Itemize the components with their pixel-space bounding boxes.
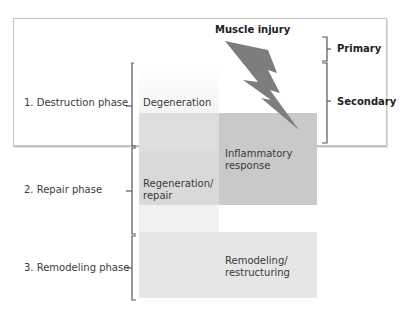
regeneration-label-1: Regeneration/ (143, 178, 213, 190)
phase-label-destruction: 1. Destruction phase (24, 97, 128, 109)
secondary-label: Secondary (337, 96, 396, 108)
remodeling-label-1: Remodeling/ (225, 255, 288, 267)
diagram-title: Muscle injury (215, 24, 290, 36)
phase-label-repair: 2. Repair phase (24, 184, 102, 196)
injury-type-bracket (322, 36, 334, 146)
remodeling-label-2: restructuring (225, 267, 290, 279)
destruction-box (139, 113, 219, 151)
degeneration-label: Degeneration (143, 97, 211, 109)
phase-label-remodeling: 3. Remodeling phase (24, 262, 129, 274)
lightning-bolt-icon (225, 38, 305, 133)
inflammatory-label-2: response (225, 160, 270, 172)
regeneration-label-2: repair (143, 190, 172, 202)
inflammatory-label-1: Inflammatory (225, 148, 292, 160)
regeneration-fade-box (139, 205, 219, 232)
primary-label: Primary (337, 43, 381, 55)
